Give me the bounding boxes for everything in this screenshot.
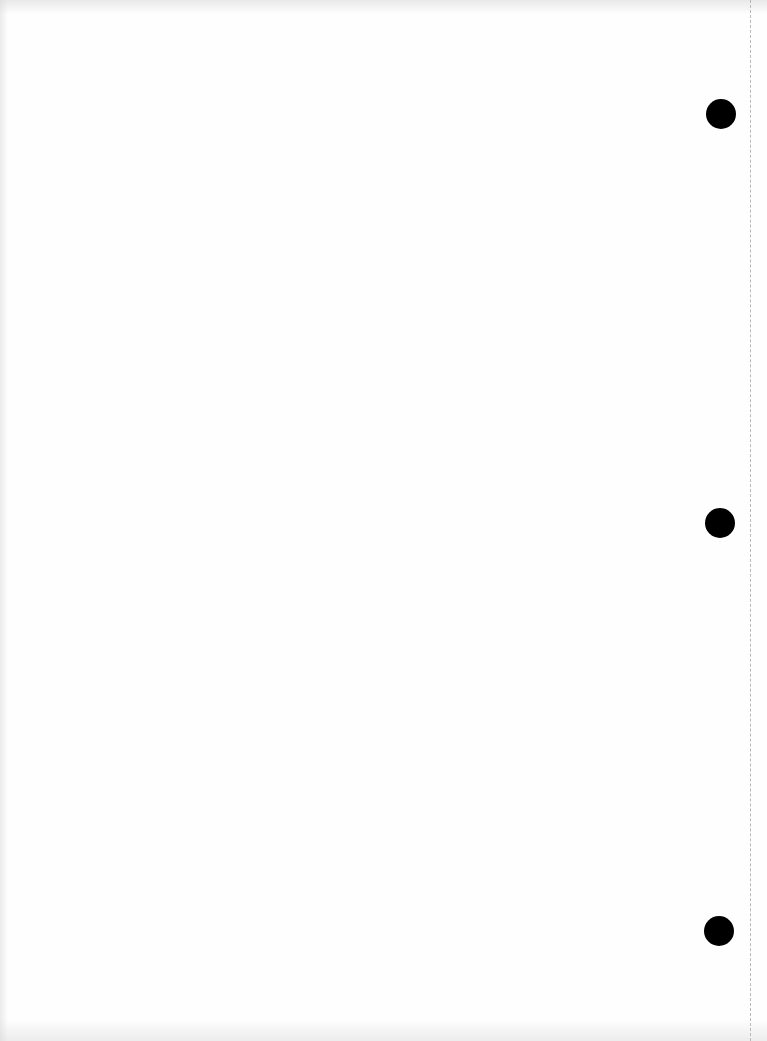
scan-edge-shadow-top [0, 0, 767, 14]
hole-punch-bottom [704, 916, 734, 946]
scan-edge-shadow-left [0, 0, 8, 1041]
blank-document-page [0, 0, 767, 1041]
hole-punch-top [706, 99, 736, 129]
perforation-line [750, 0, 751, 1041]
hole-punch-middle [705, 508, 735, 538]
scan-edge-shadow-bottom [0, 1019, 767, 1041]
